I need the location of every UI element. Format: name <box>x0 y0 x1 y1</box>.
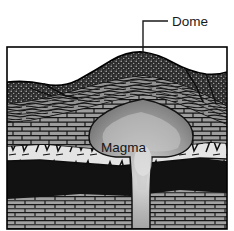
stratum-limestone-basal-top <box>7 194 227 229</box>
dome-cross-section-figure: Dome Magma <box>0 0 234 231</box>
cross-section-body <box>7 47 227 229</box>
magma-label: Magma <box>101 140 147 155</box>
dome-label: Dome <box>172 14 208 29</box>
